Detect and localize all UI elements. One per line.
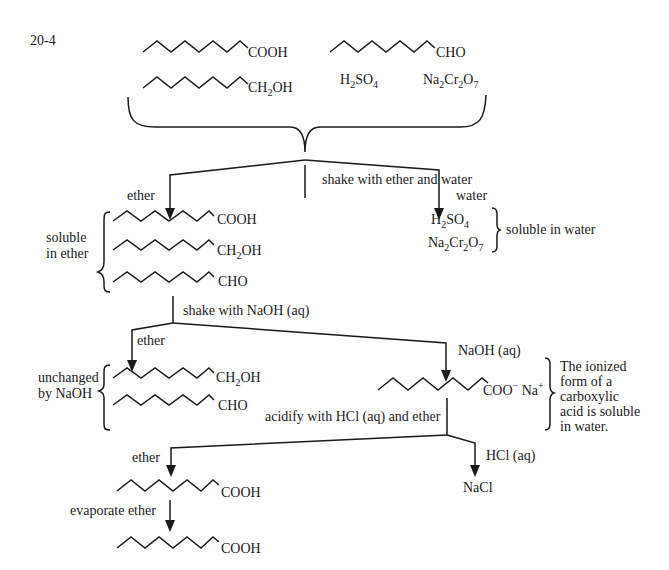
step-shake-naoh: shake with NaOH (aq) — [183, 303, 309, 319]
label-soluble-water: soluble in water — [506, 222, 595, 238]
label-cho-2: CHO — [218, 274, 248, 290]
arrow-head-ether-3 — [166, 465, 176, 477]
branch-hcl — [447, 435, 475, 470]
arrow-head-hcl — [470, 465, 480, 477]
label-water-1: water — [456, 188, 487, 204]
label-cooh-2: COOH — [217, 212, 257, 228]
zigzag-carboxylate — [378, 378, 488, 390]
zigzag-cooh-5 — [117, 537, 219, 548]
brace-ionized — [545, 358, 554, 430]
label-h2so4-top: H2SO4 — [340, 72, 378, 88]
label-cooh-5: COOH — [221, 541, 261, 557]
label-na2cr2o7-2: Na2Cr2O7 — [428, 235, 483, 251]
label-carboxylate: COO− Na+ — [483, 383, 544, 399]
ionized-form-note: The ionized form of a carboxylic acid is… — [560, 359, 640, 434]
label-unchanged-2: by NaOH — [38, 386, 92, 402]
zigzag-cooh-2 — [113, 211, 214, 221]
label-cho-top: CHO — [436, 45, 466, 61]
label-na2cr2o7-top: Na2Cr2O7 — [423, 72, 478, 88]
label-hcl-aq: HCl (aq) — [486, 448, 535, 464]
branch-ether-1 — [170, 160, 305, 213]
label-naoh-aq: NaOH (aq) — [458, 343, 521, 359]
note-line: form of a — [560, 374, 640, 389]
zigzag-ch2oh-2 — [113, 240, 214, 250]
branch-naoh — [173, 323, 446, 375]
problem-number: 20-4 — [30, 33, 56, 49]
label-ether-2: ether — [137, 333, 165, 349]
flowchart-lines — [0, 0, 669, 570]
label-unchanged-1: unchanged — [38, 370, 99, 386]
label-soluble-ether-2: in ether — [46, 246, 88, 262]
label-nacl: NaCl — [463, 480, 493, 496]
brace-soluble-ether — [98, 212, 110, 292]
zigzag-ch2oh-3 — [113, 368, 214, 378]
label-ch2oh-top: CH2OH — [248, 80, 293, 96]
separation-flowchart: 20-4 COOH CHO CH2OH H2SO4 Na2Cr2O7 shake… — [0, 0, 669, 570]
step-evaporate: evaporate ether — [70, 503, 156, 519]
label-ether-1: ether — [127, 188, 155, 204]
zigzag-cooh-4 — [117, 480, 219, 491]
zigzag-cho-2 — [113, 272, 214, 282]
note-line: acid is soluble — [560, 404, 640, 419]
brace-soluble-water — [492, 208, 501, 252]
label-h2so4-2: H2SO4 — [431, 212, 469, 228]
step-shake-ether-water: shake with ether and water — [322, 172, 472, 188]
step-acidify: acidify with HCl (aq) and ether — [265, 409, 440, 425]
branch-ether-3 — [171, 435, 447, 470]
brace-unchanged — [99, 365, 110, 430]
label-soluble-ether-1: soluble — [46, 230, 86, 246]
zigzag-ch2oh-top — [143, 77, 248, 88]
zigzag-cho-top — [330, 41, 435, 52]
label-cooh-4: COOH — [221, 485, 261, 501]
note-line: carboxylic — [560, 389, 640, 404]
zigzag-cho-3 — [113, 395, 214, 405]
label-cho-3: CHO — [218, 398, 248, 414]
note-line: The ionized — [560, 359, 640, 374]
label-ch2oh-3: CH2OH — [216, 370, 261, 386]
zigzag-cooh-top — [143, 41, 248, 52]
label-ch2oh-2: CH2OH — [217, 243, 262, 259]
label-cooh-top: COOH — [248, 45, 288, 61]
note-line: in water. — [560, 419, 640, 434]
arrow-head-ether-2 — [127, 360, 137, 372]
label-ether-3: ether — [132, 450, 160, 466]
brace-top — [128, 95, 486, 152]
arrow-head-evaporate — [165, 520, 175, 532]
